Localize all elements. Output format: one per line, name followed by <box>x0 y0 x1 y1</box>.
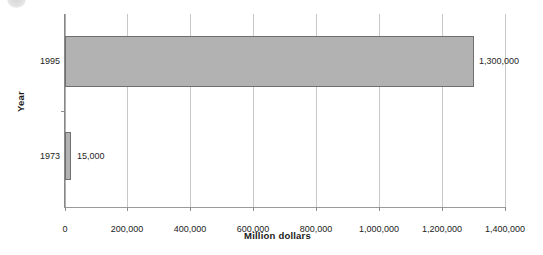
tickmark-0 <box>65 207 66 211</box>
tickmark-1200000 <box>442 207 443 211</box>
bar-1995[interactable] <box>65 36 474 87</box>
tickmark-400000 <box>190 207 191 211</box>
tickmark-600000 <box>253 207 254 211</box>
x-axis-title: Million dollars <box>0 230 543 241</box>
y-axis-minor-tick <box>61 111 65 112</box>
x-axis-title-text: Million dollars <box>232 230 311 241</box>
tickmark-1400000 <box>505 207 506 211</box>
bar-value-label-1995: 1,300,000 <box>479 56 519 67</box>
tickmark-200000 <box>127 207 128 211</box>
y-axis-category-labels: 1995 1973 <box>17 14 60 207</box>
gridline-1400000 <box>505 14 506 207</box>
tickmark-800000 <box>316 207 317 211</box>
tickmark-1000000 <box>379 207 380 211</box>
bar-chart: Year 1995 1973 1,300,000 15,000 0 200,0 <box>0 0 543 255</box>
bar-1973[interactable] <box>65 132 71 180</box>
bar-value-label-1973: 15,000 <box>77 151 105 162</box>
y-category-label-1995: 1995 <box>20 56 60 67</box>
y-category-label-1973: 1973 <box>20 151 60 162</box>
plot-area: 1,300,000 15,000 0 200,000 400,000 600,0… <box>64 14 505 208</box>
